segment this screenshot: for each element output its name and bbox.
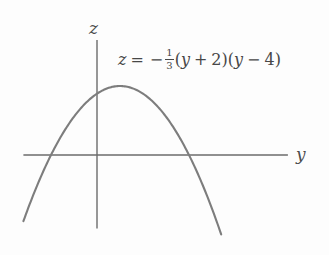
figure-background <box>0 0 329 255</box>
equation-fraction-one-third: 1 3 <box>165 48 173 71</box>
fraction-denominator: 3 <box>165 61 173 71</box>
factor2-constant: 4 <box>264 52 274 68</box>
factor2-variable: y <box>234 52 243 68</box>
axis-label-y: y <box>296 146 306 163</box>
equation-minus-sign: − <box>148 52 164 68</box>
axis-label-z: z <box>89 20 98 37</box>
factor2-operator: − <box>243 52 264 68</box>
factor1-constant: 2 <box>211 52 221 68</box>
factor1-variable: y <box>181 52 190 68</box>
parabola-figure: z y z = − 1 3 ( y + 2 ) ( y − 4 ) <box>0 0 329 255</box>
equation-lhs: z <box>118 52 126 68</box>
plot-canvas <box>0 0 329 255</box>
fraction-numerator: 1 <box>165 48 173 58</box>
factor1-operator: + <box>190 52 211 68</box>
equation-equals: = <box>126 52 147 68</box>
equation-annotation: z = − 1 3 ( y + 2 ) ( y − 4 ) <box>118 48 281 71</box>
factor2-close-paren: ) <box>275 52 281 68</box>
